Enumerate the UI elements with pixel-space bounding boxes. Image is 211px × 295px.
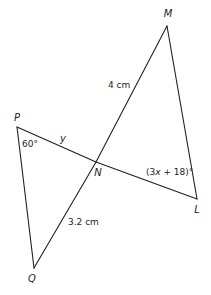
triangle-diagram: M P N L Q 4 cm 3.2 cm 60° y (3x + 18)° [0, 0, 211, 295]
angle-expr-rest: + 18)° [161, 167, 194, 177]
vertex-label-q: Q [28, 273, 36, 284]
variable-label-y: y [59, 133, 67, 144]
length-label-mn: 4 cm [108, 80, 130, 90]
segment-mn [96, 26, 167, 162]
vertex-label-m: M [164, 8, 173, 19]
angle-label-l: (3x + 18)° [146, 167, 193, 177]
vertex-label-n: N [94, 167, 102, 178]
vertex-label-p: P [14, 112, 21, 123]
length-label-nq: 3.2 cm [68, 217, 99, 227]
segment-nq [34, 162, 96, 268]
angle-expr-open: (3 [146, 167, 155, 177]
angle-label-p: 60° [22, 139, 38, 149]
vertex-label-l: L [194, 204, 200, 215]
